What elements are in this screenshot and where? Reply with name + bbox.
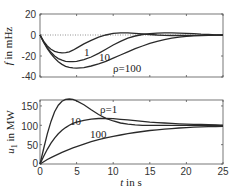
bottom-tick-marks [40,100,223,164]
y-tick-label: 100 [21,121,38,132]
x-axis-unit: in s [123,176,141,188]
y-axis-unit: in MW [4,110,16,145]
x-tick-label: 20 [180,166,192,177]
chart-figure: 20 0 -20 -40 f in mHz 1 10 ρ=100 150 100… [0,0,237,190]
y-tick-label: 0 [30,30,36,41]
x-axis-label: t in s [120,176,141,188]
annotation-rho-1: 1 [84,46,90,58]
x-tick-label: 15 [144,166,156,177]
y-axis-unit: in mHz [2,27,14,63]
bottom-plot-frame [40,100,223,164]
y-tick-label: 20 [25,9,37,20]
y-axis-label: f in mHz [2,27,14,66]
series-rho-10 [40,33,223,62]
y-tick-label: -40 [22,71,37,82]
annotation-rho-10: 10 [99,51,111,63]
x-tick-label: 0 [37,166,43,177]
y-axis-label: u1 in MW [4,110,19,154]
y-tick-label: -20 [22,51,37,62]
y-tick-label: 150 [21,101,38,112]
annotation-rho-100: 100 [90,128,107,140]
y-tick-label: 50 [27,140,39,151]
series-rho-100 [40,126,223,164]
annotation-rho-10: 10 [70,115,82,127]
annotation-rho-100: ρ=100 [113,62,142,74]
top-plot: 20 0 -20 -40 f in mHz 1 10 ρ=100 [2,9,223,82]
annotation-rho-1: ρ=1 [100,103,117,115]
x-tick-label: 10 [107,166,119,177]
svg-text:u1 in MW: u1 in MW [4,110,19,154]
x-tick-label: 5 [74,166,80,177]
series-rho-1 [40,99,223,164]
x-tick-label: 25 [217,166,229,177]
bottom-plot: 150 100 50 0 0 5 10 15 20 25 t in s u1 i… [4,99,229,188]
svg-text:f in mHz: f in mHz [2,27,14,66]
